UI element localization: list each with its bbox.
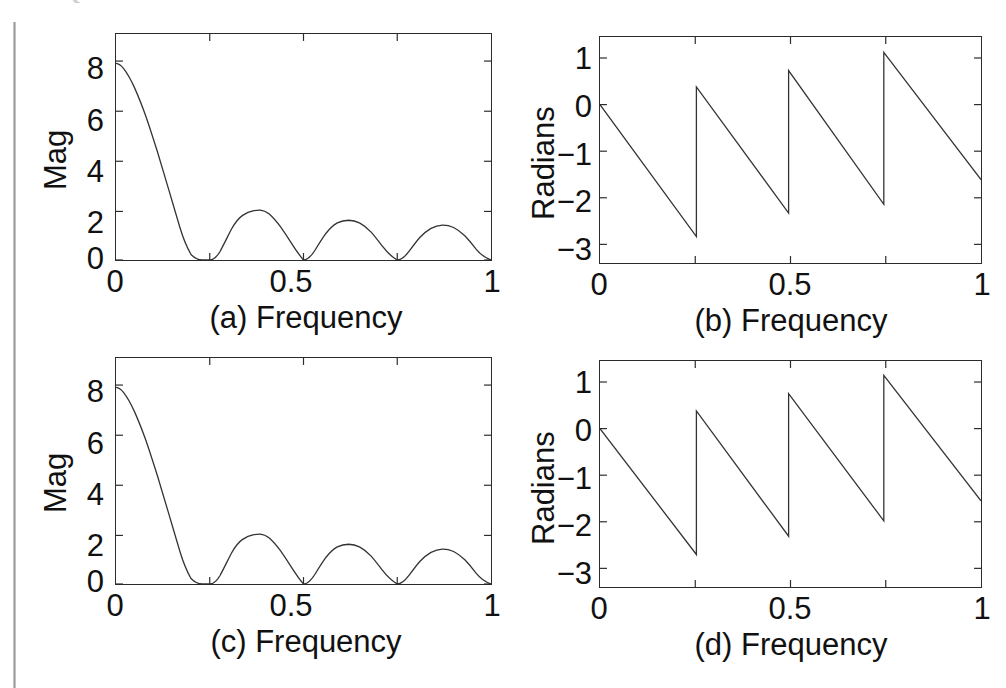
panel-d-phase-curve — [600, 375, 981, 554]
panel-b-ytick-1: 1 — [546, 43, 592, 74]
panel-d-ytick-m3: −3 — [538, 558, 592, 589]
panel-a-xtick-marks — [210, 34, 398, 260]
panel-a-plot-area — [115, 33, 492, 261]
panel-a-ytick-marks — [116, 61, 491, 260]
panel-a-ytick-4: 4 — [70, 156, 104, 187]
panel-d-ytick-marks — [600, 382, 981, 568]
panel-a-xtick-0: 0 — [99, 266, 131, 297]
panel-c-ytick-8: 8 — [70, 376, 104, 407]
panel-d-ytick-m2: −2 — [538, 510, 592, 541]
scan-artifact-line — [13, 22, 16, 688]
panel-a-magnitude-curve — [116, 63, 491, 260]
panel-a-ytick-2: 2 — [70, 207, 104, 238]
panel-d-xtick-1: 1 — [966, 593, 998, 624]
panel-c-ytick-6: 6 — [70, 428, 104, 459]
panel-a-ytick-6: 6 — [70, 105, 104, 136]
panel-a-xtick-0p5: 0.5 — [255, 266, 327, 297]
panel-a-xtick-1: 1 — [476, 266, 508, 297]
panel-c-ytick-2: 2 — [70, 530, 104, 561]
panel-c-xtick-1: 1 — [476, 590, 508, 621]
panel-b-ytick-m1: −1 — [538, 139, 592, 170]
panel-b-ytick-marks — [600, 58, 981, 244]
panel-b-xtick-0p5: 0.5 — [754, 269, 826, 300]
page-header: FREQUENCY-DOMAIN CHARACTER — [0, 0, 1006, 6]
panel-b-xtick-marks — [695, 37, 886, 263]
panel-c-y-axis-label: Mag — [40, 453, 71, 513]
panel-c-xtick-marks — [210, 358, 398, 584]
panel-b-xtick-0: 0 — [583, 269, 615, 300]
page-header-text: FREQUENCY-DOMAIN CHARACTER — [22, 0, 399, 5]
panel-d-curve-svg — [600, 361, 981, 587]
panel-d-ytick-m1: −1 — [538, 463, 592, 494]
panel-b-plot-area — [599, 36, 982, 264]
panel-c-ytick-4: 4 — [70, 479, 104, 510]
panel-d-xtick-0p5: 0.5 — [754, 593, 826, 624]
panel-d-xtick-marks — [695, 361, 886, 587]
panel-c-caption: (c) Frequency — [156, 625, 456, 659]
panel-c-curve-svg — [116, 358, 491, 584]
panel-c-xtick-0: 0 — [99, 590, 131, 621]
panel-b-xtick-1: 1 — [966, 269, 998, 300]
panel-d-ytick-0: 0 — [546, 415, 592, 446]
panel-d-ytick-1: 1 — [546, 367, 592, 398]
panel-b-ytick-m3: −3 — [538, 234, 592, 265]
panel-b-caption: (b) Frequency — [641, 304, 941, 338]
panel-d-plot-area — [599, 360, 982, 588]
panel-a-caption: (a) Frequency — [156, 301, 456, 335]
panel-c-xtick-0p5: 0.5 — [255, 590, 327, 621]
panel-b-ytick-0: 0 — [546, 91, 592, 122]
panel-d-caption: (d) Frequency — [641, 628, 941, 662]
panel-b-curve-svg — [600, 37, 981, 263]
panel-c-magnitude-curve — [116, 387, 491, 584]
panel-d-xtick-0: 0 — [583, 593, 615, 624]
panel-a-y-axis-label: Mag — [40, 130, 71, 190]
panel-a-curve-svg — [116, 34, 491, 260]
panel-a-ytick-8: 8 — [70, 53, 104, 84]
panel-b-phase-curve — [600, 52, 981, 236]
panel-c-ytick-marks — [116, 385, 491, 584]
panel-c-plot-area — [115, 357, 492, 585]
panel-b-ytick-m2: −2 — [538, 186, 592, 217]
